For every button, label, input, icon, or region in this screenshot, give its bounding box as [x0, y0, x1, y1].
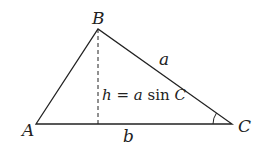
angle-c-arc: [213, 113, 217, 124]
height-formula: h = a sin C: [102, 86, 186, 104]
vertex-label-b: B: [91, 8, 105, 28]
vertex-label-c: C: [238, 116, 251, 136]
vertex-label-a: A: [20, 120, 34, 140]
triangle: [36, 29, 232, 124]
side-label-a: a: [159, 49, 169, 69]
side-label-b: b: [123, 126, 134, 146]
triangle-diagram: B A C a b h = a sin C: [0, 0, 265, 153]
